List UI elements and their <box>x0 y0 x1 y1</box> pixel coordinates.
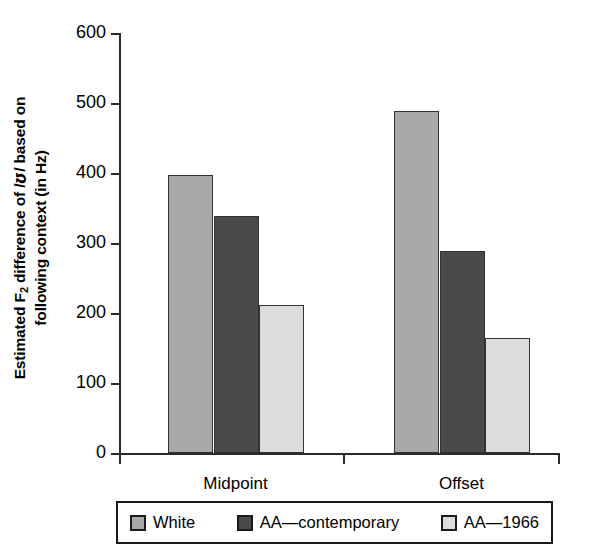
bar-offset-aa-contemporary <box>440 251 485 453</box>
y-axis-title-ipa-symbol: ʊ <box>11 172 29 184</box>
y-axis-tick-600: 600 <box>111 33 120 35</box>
y-axis-tick-300: 300 <box>111 243 120 245</box>
y-axis-tick-200: 200 <box>111 313 120 315</box>
bar-midpoint-white <box>168 175 213 453</box>
y-axis-tick-label-300: 300 <box>46 232 106 253</box>
legend-item-aa-contemporary[interactable]: AA—contemporary <box>237 513 399 532</box>
y-axis-title-subscript: 2 <box>18 287 30 293</box>
x-axis-tick-1 <box>343 455 345 464</box>
legend-swatch-icon <box>130 515 146 531</box>
y-axis-title-part-1: Estimated F <box>11 293 28 379</box>
y-axis-tick-label-400: 400 <box>46 162 106 183</box>
legend-label: AA—1966 <box>464 513 539 532</box>
y-axis-tick-label-600: 600 <box>46 22 106 43</box>
legend-swatch-icon <box>441 515 457 531</box>
legend-label: White <box>153 513 195 532</box>
y-axis-tick-500: 500 <box>111 103 120 105</box>
y-axis-tick-label-200: 200 <box>46 302 106 323</box>
x-axis-tick-0 <box>119 455 121 464</box>
legend-label: AA—contemporary <box>260 513 399 532</box>
y-axis-tick-400: 400 <box>111 173 120 175</box>
y-axis-title-part-2: difference of / <box>11 184 28 288</box>
bar-offset-white <box>394 111 439 453</box>
bar-midpoint-aa-contemporary <box>214 216 259 453</box>
bar-midpoint-aa-1966 <box>259 305 304 453</box>
y-axis-tick-label-100: 100 <box>46 372 106 393</box>
y-axis-tick-label-0: 0 <box>46 442 106 463</box>
legend-item-aa-1966[interactable]: AA—1966 <box>441 513 539 532</box>
bar-chart-figure: Estimated F2 difference of /ʊ/ based on … <box>0 0 608 560</box>
plot-area: 6005004003002001000 MidpointOffset <box>119 33 560 455</box>
chart-legend: WhiteAA—contemporaryAA—1966 <box>116 501 553 544</box>
y-axis-tick-label-500: 500 <box>46 92 106 113</box>
x-axis-tick-2 <box>558 455 560 464</box>
x-axis-label-offset: Offset <box>439 474 484 494</box>
legend-item-white[interactable]: White <box>130 513 195 532</box>
y-axis-title-part-3: / based on <box>11 97 28 172</box>
bar-offset-aa-1966 <box>485 338 530 454</box>
x-axis-line <box>119 453 560 455</box>
y-axis-tick-100: 100 <box>111 383 120 385</box>
x-axis-label-midpoint: Midpoint <box>203 474 267 494</box>
legend-swatch-icon <box>237 515 253 531</box>
